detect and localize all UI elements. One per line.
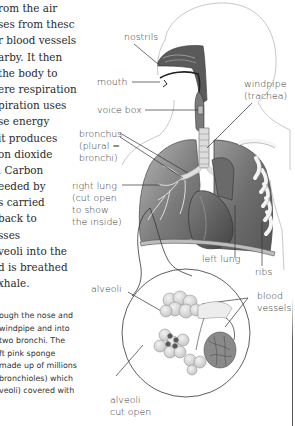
label-right-lung: right lung (cut open to show the inside) [72,180,122,228]
label-mouth: mouth [97,76,127,88]
label-alveoli-cut-open: alveoli cut open [110,394,151,418]
label-left-lung: left lung [202,253,240,265]
label-alveoli: alveoli [91,283,122,295]
voice-box [195,92,204,131]
trachea [199,128,209,168]
label-windpipe: windpipe (trachea) [244,78,287,102]
label-bronchus: bronchus (plural = bronchi) [79,128,122,164]
book-page: rom the air ses from thesc r blood vesse… [0,0,295,426]
page-edge-line [292,0,293,426]
label-voice-box: voice box [97,104,142,116]
label-nostrils: nostrils [124,31,158,43]
label-blood-vessels: blood vessels [257,290,291,314]
label-ribs: ribs [255,266,272,278]
respiratory-system-illustration [0,0,295,426]
alveoli-cluster [154,291,236,375]
